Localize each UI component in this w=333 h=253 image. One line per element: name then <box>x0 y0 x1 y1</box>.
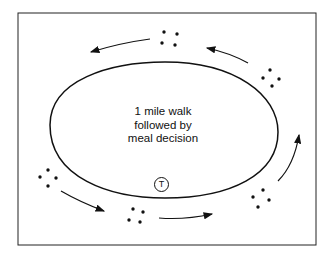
dot-group-left <box>38 168 57 187</box>
center-label: 1 mile walk followed by meal decision <box>103 105 223 146</box>
dot-group-top <box>160 30 178 46</box>
dot-group-lower-right <box>251 188 270 208</box>
label-line-3: meal decision <box>103 132 223 146</box>
label-line-2: followed by <box>103 119 223 133</box>
arrow-top-right <box>207 48 248 63</box>
label-line-1: 1 mile walk <box>103 105 223 119</box>
arrow-top-left <box>91 39 150 52</box>
track-marker-t: T <box>154 177 169 192</box>
dot-group-upper-right <box>261 68 280 87</box>
dot-group-bottom <box>127 207 144 223</box>
arrow-right <box>278 135 299 181</box>
arrow-bottom-right <box>159 214 212 219</box>
arrow-bottom-left <box>61 191 104 211</box>
